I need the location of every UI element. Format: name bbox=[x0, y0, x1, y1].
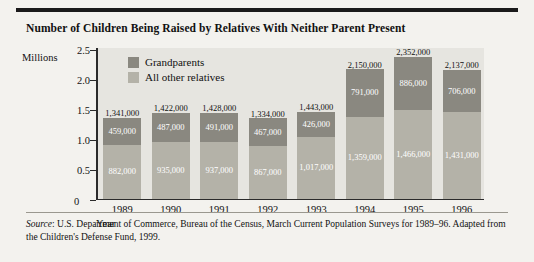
bar-segment-other-relatives: 791,000 bbox=[346, 69, 384, 117]
legend-item-other-relatives: All other relatives bbox=[128, 71, 224, 83]
legend-label-grandparents: Grandparents bbox=[145, 56, 204, 68]
bar-segment-label: 937,000 bbox=[200, 165, 238, 175]
legend: Grandparents All other relatives bbox=[128, 56, 224, 86]
x-tick-label: 1993 bbox=[293, 204, 339, 215]
legend-swatch-grandparents bbox=[128, 57, 139, 68]
bar-total-label: 2,352,000 bbox=[390, 47, 436, 57]
bar: 467,000867,000 bbox=[249, 118, 287, 198]
chart-figure: Number of Children Being Raised by Relat… bbox=[0, 0, 534, 262]
bar-segment-other-relatives: 459,000 bbox=[103, 118, 141, 146]
y-tick-label: 1.5 bbox=[77, 104, 90, 115]
y-tick-label: 1.0 bbox=[77, 134, 90, 145]
bar-segment-other-relatives: 426,000 bbox=[297, 112, 335, 138]
y-axis-tick bbox=[90, 50, 96, 51]
bar-segment-label: 1,466,000 bbox=[394, 149, 432, 159]
x-tick-label: 1996 bbox=[439, 204, 485, 215]
bar-segment-label: 791,000 bbox=[346, 87, 384, 97]
y-axis-tick bbox=[90, 170, 96, 171]
bar-segment-grandparents: 882,000 bbox=[103, 145, 141, 198]
bar-segment-grandparents: 937,000 bbox=[200, 142, 238, 198]
bar-segment-grandparents: 1,359,000 bbox=[346, 117, 384, 199]
x-tick-label: 1990 bbox=[148, 204, 194, 215]
source-text: : U.S. Department of Commerce, Bureau of… bbox=[26, 219, 506, 242]
bar-segment-grandparents: 867,000 bbox=[249, 146, 287, 198]
divider bbox=[26, 212, 508, 213]
bar-segment-label: 1,359,000 bbox=[346, 152, 384, 162]
bar-segment-grandparents: 935,000 bbox=[152, 142, 190, 198]
bar-segment-label: 491,000 bbox=[200, 122, 238, 132]
bar: 706,0001,431,000 bbox=[443, 70, 481, 199]
bar: 426,0001,017,000 bbox=[297, 112, 335, 199]
bar: 459,000882,000 bbox=[103, 118, 141, 199]
bar-segment-label: 1,017,000 bbox=[297, 162, 335, 172]
chart-title: Number of Children Being Raised by Relat… bbox=[26, 22, 405, 34]
bar-total-label: 1,428,000 bbox=[196, 103, 242, 113]
y-axis-tick bbox=[90, 110, 96, 111]
y-tick-label: 0.5 bbox=[77, 164, 90, 175]
bar-segment-label: 467,000 bbox=[249, 127, 287, 137]
legend-swatch-other-relatives bbox=[128, 72, 139, 83]
x-tick-label: 1994 bbox=[342, 204, 388, 215]
bar-segment-label: 459,000 bbox=[103, 126, 141, 136]
bar-total-label: 1,422,000 bbox=[148, 103, 194, 113]
bar-segment-label: 487,000 bbox=[152, 122, 190, 132]
y-axis-tick bbox=[90, 200, 96, 201]
bar-segment-other-relatives: 467,000 bbox=[249, 118, 287, 146]
bar-total-label: 2,137,000 bbox=[439, 60, 485, 70]
bar: 491,000937,000 bbox=[200, 113, 238, 199]
source-prefix: Source bbox=[26, 219, 52, 229]
y-tick-label: 2.5 bbox=[77, 44, 90, 55]
bar-segment-label: 935,000 bbox=[152, 165, 190, 175]
legend-item-grandparents: Grandparents bbox=[128, 56, 224, 68]
bar-total-label: 1,341,000 bbox=[99, 108, 145, 118]
bar-segment-grandparents: 1,431,000 bbox=[443, 112, 481, 198]
bar-segment-other-relatives: 886,000 bbox=[394, 57, 432, 110]
bar-segment-other-relatives: 491,000 bbox=[200, 113, 238, 143]
y-axis-tick bbox=[90, 80, 96, 81]
bar-segment-grandparents: 1,017,000 bbox=[297, 137, 335, 198]
bar: 791,0001,359,000 bbox=[346, 69, 384, 198]
bar: 886,0001,466,000 bbox=[394, 57, 432, 199]
bar-segment-label: 1,431,000 bbox=[443, 150, 481, 160]
y-axis-tick bbox=[90, 140, 96, 141]
bar-segment-other-relatives: 706,000 bbox=[443, 70, 481, 113]
bar-segment-label: 882,000 bbox=[103, 166, 141, 176]
x-tick-label: 1991 bbox=[196, 204, 242, 215]
bar-total-label: 1,334,000 bbox=[245, 109, 291, 119]
bar-total-label: 1,443,000 bbox=[293, 102, 339, 112]
x-tick-label: 1989 bbox=[99, 204, 145, 215]
x-tick-label: 1992 bbox=[245, 204, 291, 215]
bar: 487,000935,000 bbox=[152, 113, 190, 199]
bar-segment-label: 706,000 bbox=[443, 86, 481, 96]
y-axis-zero-label: 0 bbox=[74, 196, 79, 207]
bar-segment-other-relatives: 487,000 bbox=[152, 113, 190, 142]
legend-label-other-relatives: All other relatives bbox=[145, 71, 224, 83]
bar-segment-label: 867,000 bbox=[249, 167, 287, 177]
bar-segment-label: 426,000 bbox=[297, 119, 335, 129]
y-axis-ticks: 00.51.01.52.02.5 bbox=[48, 48, 90, 200]
bar-total-label: 2,150,000 bbox=[342, 60, 388, 70]
top-rule bbox=[16, 8, 518, 12]
y-tick-label: 2.0 bbox=[77, 74, 90, 85]
source-note: Source: U.S. Department of Commerce, Bur… bbox=[26, 218, 512, 244]
x-tick-label: 1995 bbox=[390, 204, 436, 215]
bar-segment-grandparents: 1,466,000 bbox=[394, 110, 432, 198]
bar-segment-label: 886,000 bbox=[394, 78, 432, 88]
